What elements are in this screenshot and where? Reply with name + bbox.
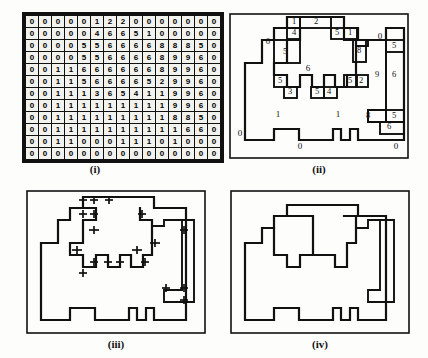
grid-cell: 1 bbox=[130, 100, 142, 111]
grid-cell: 0 bbox=[182, 136, 194, 147]
grid-cell: 0 bbox=[65, 148, 77, 159]
grid-cell: 0 bbox=[208, 52, 220, 63]
grid-cell: 4 bbox=[130, 88, 142, 99]
region-code-label: 2 bbox=[359, 75, 363, 85]
crossing-marker-icon bbox=[116, 258, 124, 266]
background-label: 0 bbox=[378, 31, 383, 41]
grid-cell: 6 bbox=[130, 40, 142, 51]
region-code-label: 5 bbox=[392, 40, 396, 50]
background-label: 0 bbox=[238, 128, 243, 138]
grid-cell: 5 bbox=[78, 76, 90, 87]
grid-cell: 0 bbox=[156, 28, 168, 39]
grid-cell: 9 bbox=[169, 88, 181, 99]
region-code-label: 6 bbox=[392, 69, 396, 79]
grid-cell: 0 bbox=[117, 148, 129, 159]
simplified-inner-iv bbox=[274, 216, 313, 267]
grid-cell: 1 bbox=[104, 112, 116, 123]
grid-cell: 0 bbox=[208, 124, 220, 135]
grid-cell: 0 bbox=[195, 136, 207, 147]
panel-i-label-grid: 0000012200000000000046651000000000556666… bbox=[22, 12, 224, 163]
grid-cell: 6 bbox=[117, 52, 129, 63]
grid-cell: 0 bbox=[39, 112, 51, 123]
grid-cell: 1 bbox=[143, 88, 155, 99]
grid-cell: 6 bbox=[78, 64, 90, 75]
grid-cell: 0 bbox=[39, 148, 51, 159]
grid-cell: 0 bbox=[39, 76, 51, 87]
panel-ii-labelled-boundary: 1245158596552354856 611 00000 bbox=[228, 12, 410, 160]
grid-cell: 0 bbox=[208, 100, 220, 111]
grid-cell: 0 bbox=[195, 28, 207, 39]
grid-cell: 0 bbox=[26, 52, 38, 63]
grid-cell: 0 bbox=[78, 148, 90, 159]
grid-cell: 1 bbox=[52, 76, 64, 87]
grid-cell: 6 bbox=[104, 64, 116, 75]
grid-cell: 6 bbox=[195, 64, 207, 75]
grid-cell: 1 bbox=[143, 136, 155, 147]
grid-cell: 0 bbox=[65, 40, 77, 51]
grid-cell: 0 bbox=[39, 136, 51, 147]
grid-cell: 0 bbox=[78, 28, 90, 39]
background-label: 0 bbox=[394, 141, 399, 151]
grid-cell: 2 bbox=[156, 76, 168, 87]
grid-cell: 6 bbox=[104, 28, 116, 39]
region-code-label: 5 bbox=[278, 75, 282, 85]
grid-cell: 0 bbox=[26, 88, 38, 99]
crossing-markers bbox=[72, 196, 188, 304]
grid-cell: 1 bbox=[156, 124, 168, 135]
grid-cell: 1 bbox=[143, 100, 155, 111]
crossing-marker-icon bbox=[89, 226, 99, 234]
grid-cell: 1 bbox=[143, 28, 155, 39]
grid-cell: 0 bbox=[195, 148, 207, 159]
grid-cell: 0 bbox=[208, 148, 220, 159]
grid-cell: 1 bbox=[156, 112, 168, 123]
grid-cell: 0 bbox=[26, 100, 38, 111]
crossing-marker-icon bbox=[79, 269, 87, 277]
grid-cell: 0 bbox=[130, 16, 142, 27]
grid-cell: 0 bbox=[169, 148, 181, 159]
grid-cell: 5 bbox=[91, 52, 103, 63]
grid-cell: 1 bbox=[91, 112, 103, 123]
grid-cell: 1 bbox=[156, 100, 168, 111]
grid-cell: 0 bbox=[208, 136, 220, 147]
grid-cell: 8 bbox=[156, 40, 168, 51]
grid-cell: 1 bbox=[65, 112, 77, 123]
grid-cell: 1 bbox=[52, 88, 64, 99]
grid-cell: 0 bbox=[26, 28, 38, 39]
region-code-label: 5 bbox=[392, 110, 396, 120]
grid-cell: 1 bbox=[104, 100, 116, 111]
grid-cell: 0 bbox=[130, 148, 142, 159]
panel-ii-svg: 1245158596552354856 611 00000 bbox=[228, 12, 410, 160]
grid-cell: 1 bbox=[143, 112, 155, 123]
grid-cell: 6 bbox=[104, 40, 116, 51]
grid-cell: 6 bbox=[117, 64, 129, 75]
region-label: 1 bbox=[276, 109, 281, 119]
grid-cell: 9 bbox=[169, 52, 181, 63]
region-label: 1 bbox=[336, 109, 341, 119]
grid-cell: 6 bbox=[104, 76, 116, 87]
grid-cell: 0 bbox=[156, 16, 168, 27]
grid-cell: 1 bbox=[117, 124, 129, 135]
grid-cell: 5 bbox=[78, 52, 90, 63]
grid-cell: 5 bbox=[195, 40, 207, 51]
grid-cell: 9 bbox=[182, 52, 194, 63]
region-code-label: 1 bbox=[292, 16, 296, 26]
grid-cell: 6 bbox=[91, 76, 103, 87]
caption-panel-ii: (ii) bbox=[228, 163, 410, 175]
region-code-label: 5 bbox=[283, 46, 287, 56]
grid-cell: 0 bbox=[39, 64, 51, 75]
grid-cell: 6 bbox=[195, 88, 207, 99]
grid-cell: 1 bbox=[117, 112, 129, 123]
crossing-marker-icon bbox=[132, 246, 142, 254]
grid-cell: 0 bbox=[26, 76, 38, 87]
grid-cell: 1 bbox=[91, 100, 103, 111]
grid-cell: 8 bbox=[182, 112, 194, 123]
grid-cell: 1 bbox=[130, 124, 142, 135]
grid-cell: 6 bbox=[117, 40, 129, 51]
crossing-marker-icon bbox=[79, 210, 87, 218]
grid-cell: 1 bbox=[130, 112, 142, 123]
grid-cell: 0 bbox=[39, 100, 51, 111]
grid-cell: 0 bbox=[26, 112, 38, 123]
region-code-label: 2 bbox=[314, 16, 318, 26]
grid-cell: 1 bbox=[52, 100, 64, 111]
grid-cell: 1 bbox=[65, 64, 77, 75]
